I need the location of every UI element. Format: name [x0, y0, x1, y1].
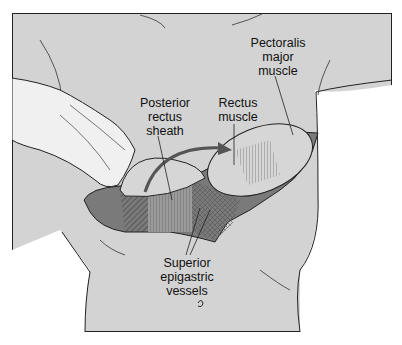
label-line: Superior	[152, 256, 222, 270]
contour	[140, 15, 165, 28]
background-right	[300, 85, 392, 332]
label-line: vessels	[152, 284, 222, 298]
label-line: epigastric	[152, 270, 222, 284]
label-posterior-rectus-sheath: Posterior rectus sheath	[130, 96, 200, 138]
label-line: major	[243, 50, 313, 64]
label-rectus-muscle: Rectus muscle	[208, 96, 268, 124]
label-line: Pectoralis	[243, 36, 313, 50]
navel	[198, 301, 203, 307]
contour	[260, 270, 290, 290]
background-left	[12, 230, 90, 332]
label-line: sheath	[130, 124, 200, 138]
contour	[100, 240, 125, 255]
label-line: Posterior	[130, 96, 200, 110]
contour	[232, 14, 262, 25]
label-pectoralis-major: Pectoralis major muscle	[243, 36, 313, 78]
label-line: muscle	[243, 64, 313, 78]
hand	[12, 78, 135, 187]
label-superior-epigastric-vessels: Superior epigastric vessels	[152, 256, 222, 298]
label-line: rectus	[130, 110, 200, 124]
label-line: Rectus	[208, 96, 268, 110]
label-line: muscle	[208, 110, 268, 124]
